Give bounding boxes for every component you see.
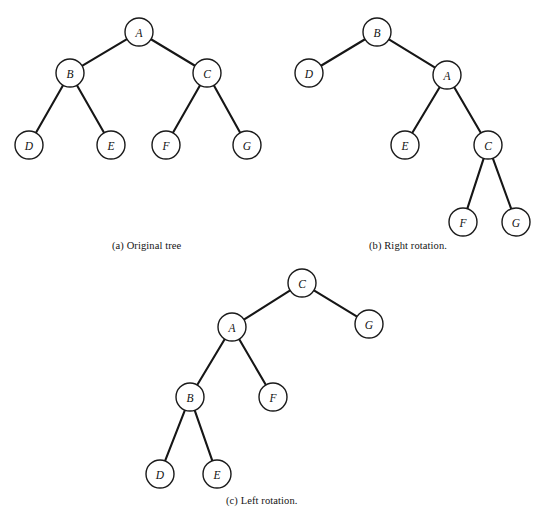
panel-b-edges: [321, 39, 511, 209]
tree-edge-A-C: [454, 87, 481, 133]
node-label-C: C: [484, 140, 492, 152]
node-label-C: C: [203, 68, 211, 80]
node-label-D: D: [155, 469, 165, 481]
tree-node-E[interactable]: E: [203, 460, 231, 488]
node-label-D: D: [24, 140, 34, 152]
node-label-G: G: [365, 319, 374, 331]
node-label-B: B: [66, 68, 73, 80]
tree-node-D[interactable]: D: [15, 131, 43, 159]
node-label-A: A: [134, 27, 143, 39]
node-label-A: A: [442, 70, 451, 82]
tree-node-C[interactable]: C: [193, 59, 221, 87]
tree-diagram-canvas: ABCDEFGBDAECFGCAGBFDE: [0, 0, 546, 517]
node-label-G: G: [512, 217, 521, 229]
node-label-E: E: [106, 140, 114, 152]
tree-edge-B-A: [389, 39, 435, 67]
caption-original-tree: (a) Original tree: [112, 240, 181, 251]
tree-edge-A-F: [239, 339, 266, 385]
tree-edge-C-G: [314, 290, 357, 316]
node-label-F: F: [161, 140, 170, 152]
tree-node-G[interactable]: G: [233, 131, 261, 159]
tree-node-B[interactable]: B: [363, 18, 391, 46]
tree-node-D[interactable]: D: [146, 460, 174, 488]
node-label-E: E: [212, 469, 220, 481]
node-label-F: F: [458, 217, 467, 229]
tree-node-A[interactable]: A: [218, 313, 246, 341]
node-label-F: F: [268, 392, 277, 404]
tree-node-E[interactable]: E: [391, 131, 419, 159]
panel-c-nodes: CAGBFDE: [146, 269, 383, 488]
tree-edge-B-E: [77, 85, 104, 133]
tree-edge-A-B: [82, 39, 127, 66]
panel-a-nodes: ABCDEFG: [15, 18, 261, 159]
tree-node-A[interactable]: A: [433, 61, 461, 89]
figure-root: ABCDEFGBDAECFGCAGBFDE (a) Original tree …: [0, 0, 546, 517]
tree-edge-C-F: [173, 85, 200, 133]
tree-edge-C-G: [214, 85, 240, 133]
node-label-D: D: [304, 68, 314, 80]
node-label-A: A: [227, 322, 236, 334]
tree-node-B[interactable]: B: [56, 59, 84, 87]
tree-edge-B-D: [36, 85, 63, 133]
tree-node-B[interactable]: B: [176, 383, 204, 411]
panel-c-edges: [165, 290, 357, 461]
tree-edge-B-D: [165, 410, 185, 461]
tree-node-D[interactable]: D: [295, 59, 323, 87]
tree-edge-C-A: [244, 290, 290, 319]
tree-edge-A-B: [197, 339, 225, 385]
tree-edge-A-C: [151, 39, 195, 66]
tree-node-G[interactable]: G: [355, 310, 383, 338]
node-label-C: C: [298, 278, 306, 290]
tree-node-F[interactable]: F: [259, 383, 287, 411]
node-label-B: B: [373, 27, 380, 39]
panel-b-nodes: BDAECFG: [295, 18, 530, 236]
caption-left-rotation: (c) Left rotation.: [226, 495, 297, 506]
tree-edge-B-E: [195, 410, 213, 461]
node-label-E: E: [400, 140, 408, 152]
node-label-G: G: [243, 140, 252, 152]
tree-edge-C-G: [493, 158, 511, 209]
tree-edge-B-D: [321, 39, 365, 66]
node-label-B: B: [186, 392, 193, 404]
tree-node-F[interactable]: F: [152, 131, 180, 159]
tree-node-G[interactable]: G: [502, 208, 530, 236]
nodes-layer: ABCDEFGBDAECFGCAGBFDE: [15, 18, 530, 488]
tree-node-E[interactable]: E: [97, 131, 125, 159]
tree-edge-A-E: [412, 87, 440, 133]
tree-edge-C-F: [467, 158, 483, 208]
caption-right-rotation: (b) Right rotation.: [369, 240, 447, 251]
tree-node-C[interactable]: C: [288, 269, 316, 297]
tree-node-C[interactable]: C: [474, 131, 502, 159]
tree-node-A[interactable]: A: [125, 18, 153, 46]
tree-node-F[interactable]: F: [449, 208, 477, 236]
